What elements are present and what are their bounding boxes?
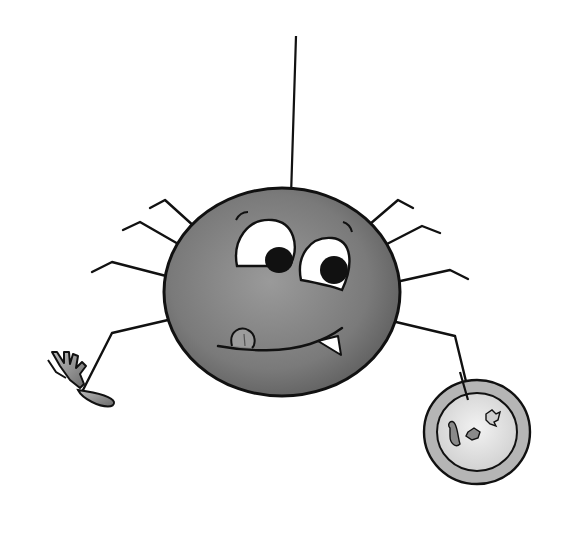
tongue bbox=[231, 329, 254, 348]
leg-right-2 bbox=[385, 226, 440, 245]
spider-thread bbox=[291, 36, 296, 196]
leg-right-1 bbox=[370, 200, 413, 224]
leg-right-3 bbox=[396, 270, 468, 282]
spider-body bbox=[164, 188, 400, 396]
spider-illustration bbox=[0, 0, 568, 533]
leg-left-4 bbox=[82, 320, 168, 392]
fork-icon bbox=[48, 352, 114, 407]
leg-left-3 bbox=[92, 262, 170, 277]
pupil-right bbox=[320, 256, 348, 284]
pupil-left bbox=[265, 247, 293, 273]
leg-left-1 bbox=[150, 200, 196, 228]
plate-icon bbox=[424, 372, 530, 484]
leg-left-2 bbox=[123, 222, 180, 245]
